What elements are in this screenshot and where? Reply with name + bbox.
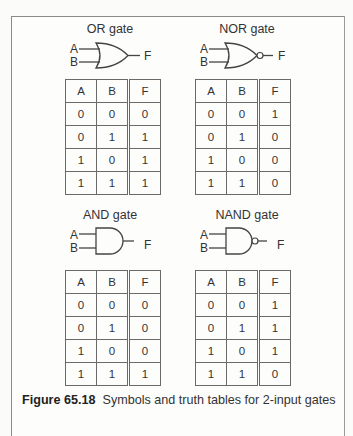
gate-title: NAND gate	[187, 208, 307, 222]
header-cell: A	[66, 80, 97, 103]
cell: 0	[66, 294, 97, 317]
cell: 1	[227, 363, 259, 386]
cell: 0	[196, 126, 227, 149]
header-cell: B	[227, 80, 259, 103]
input-a-label: A	[70, 42, 78, 56]
cell: 1	[227, 317, 259, 340]
cell: 0	[66, 317, 97, 340]
table-row: 001	[196, 103, 291, 126]
cell: 1	[129, 149, 161, 172]
table-row: 100	[66, 340, 161, 363]
and-gate-icon: A B F	[50, 225, 170, 257]
cell: 0	[259, 149, 291, 172]
table-row: 010	[196, 126, 291, 149]
table-header-row: A B F	[66, 271, 161, 294]
cell: 1	[227, 172, 259, 195]
table-row: 010	[66, 317, 161, 340]
cell: 1	[196, 363, 227, 386]
header-cell: B	[227, 271, 259, 294]
cell: 0	[97, 149, 129, 172]
cell: 1	[97, 126, 129, 149]
header-cell: B	[97, 80, 129, 103]
table-row: 110	[196, 172, 291, 195]
input-b-label: B	[200, 55, 208, 69]
input-b-label: B	[200, 241, 208, 255]
caption-text: Symbols and truth tables for 2-input gat…	[103, 393, 336, 407]
cell: 1	[129, 172, 161, 195]
cell: 0	[66, 103, 97, 126]
input-b-label: B	[70, 241, 78, 255]
header-cell: F	[259, 271, 291, 294]
cell: 1	[97, 172, 129, 195]
table-row: 100	[196, 149, 291, 172]
table-header-row: A B F	[66, 80, 161, 103]
table-row: 111	[66, 363, 161, 386]
or-truth-table: A B F 000 011 101 111	[65, 79, 161, 195]
cell: 1	[259, 103, 291, 126]
cell: 1	[196, 149, 227, 172]
cell: 1	[66, 172, 97, 195]
header-cell: A	[196, 271, 227, 294]
caption-label: Figure 65.18	[22, 393, 96, 407]
cell: 0	[97, 340, 129, 363]
figure-caption: Figure 65.18 Symbols and truth tables fo…	[22, 393, 336, 407]
cell: 0	[129, 340, 161, 363]
cell: 0	[196, 103, 227, 126]
header-cell: A	[196, 80, 227, 103]
table-row: 111	[66, 172, 161, 195]
table-row: 101	[66, 149, 161, 172]
cell: 0	[66, 126, 97, 149]
cell: 1	[66, 149, 97, 172]
cell: 0	[227, 294, 259, 317]
nor-truth-table: A B F 001 010 100 110	[195, 79, 291, 195]
table-row: 001	[196, 294, 291, 317]
or-gate-icon: A B F	[50, 39, 170, 71]
cell: 1	[66, 363, 97, 386]
cell: 0	[196, 317, 227, 340]
output-label: F	[144, 238, 151, 252]
and-truth-table: A B F 000 010 100 111	[65, 270, 161, 386]
table-header-row: A B F	[196, 271, 291, 294]
cell: 0	[129, 317, 161, 340]
cell: 1	[259, 340, 291, 363]
cell: 0	[196, 294, 227, 317]
input-b-label: B	[70, 55, 78, 69]
cell: 1	[259, 294, 291, 317]
cell: 0	[129, 103, 161, 126]
cell: 1	[129, 363, 161, 386]
cell: 1	[196, 340, 227, 363]
output-label: F	[278, 49, 285, 63]
gate-title: OR gate	[50, 22, 170, 36]
header-cell: F	[259, 80, 291, 103]
table-row: 011	[66, 126, 161, 149]
cell: 1	[227, 126, 259, 149]
header-cell: A	[66, 271, 97, 294]
input-a-label: A	[70, 228, 78, 242]
input-a-label: A	[200, 228, 208, 242]
cell: 0	[227, 340, 259, 363]
gate-title: NOR gate	[187, 22, 307, 36]
nand-truth-table: A B F 001 011 101 110	[195, 270, 291, 386]
cell: 1	[97, 317, 129, 340]
cell: 0	[227, 103, 259, 126]
table-row: 000	[66, 294, 161, 317]
cell: 1	[196, 172, 227, 195]
cell: 1	[259, 317, 291, 340]
gate-title: AND gate	[50, 208, 170, 222]
table-header-row: A B F	[196, 80, 291, 103]
header-cell: F	[129, 80, 161, 103]
cell: 0	[97, 294, 129, 317]
input-a-label: A	[200, 42, 208, 56]
header-cell: B	[97, 271, 129, 294]
output-label: F	[144, 49, 151, 63]
cell: 0	[227, 149, 259, 172]
header-cell: F	[129, 271, 161, 294]
nand-gate-icon: A B F	[187, 225, 307, 257]
cell: 1	[97, 363, 129, 386]
table-row: 000	[66, 103, 161, 126]
table-row: 110	[196, 363, 291, 386]
table-row: 101	[196, 340, 291, 363]
nor-gate-icon: A B F	[187, 39, 307, 71]
table-row: 011	[196, 317, 291, 340]
cell: 0	[97, 103, 129, 126]
